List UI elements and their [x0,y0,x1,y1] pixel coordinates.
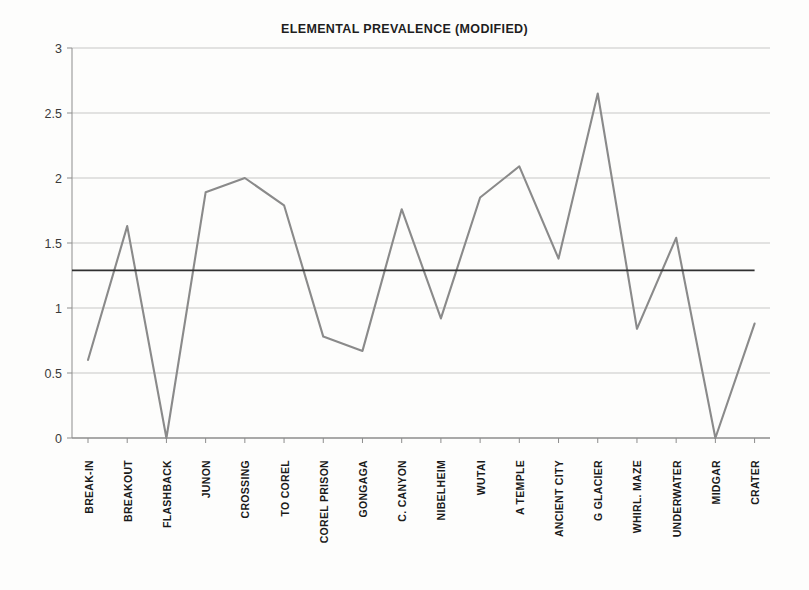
x-axis-category-label: BREAK-IN [83,460,95,514]
y-axis-tick-label: 2.5 [45,107,62,121]
x-axis-category-label: TO COREL [279,460,291,517]
line-chart-plot: 00.511.522.53 BREAK-INBREAKOUTFLASHBACKJ… [0,0,809,590]
x-axis-category-labels: BREAK-INBREAKOUTFLASHBACKJUNONCROSSINGTO… [83,460,762,544]
y-axis-tick-label: 0.5 [45,367,62,381]
x-axis-ticks [88,438,755,443]
x-axis-category-label: GONGAGA [357,460,369,518]
x-axis-category-label: A TEMPLE [514,460,526,515]
x-axis-category-label: NIBELHEIM [435,460,447,520]
y-axis-tick-label: 1.5 [45,237,62,251]
x-axis-category-label: FLASHBACK [161,460,173,528]
y-axis-tick-label: 1 [55,302,62,316]
x-axis-category-label: WUTAI [475,460,487,495]
x-axis-category-label: G GLACIER [592,460,604,521]
series-line-elemental-prevalence [88,94,755,439]
x-axis-category-label: WHIRL. MAZE [631,460,643,533]
x-axis-category-label: COREL PRISON [318,460,330,543]
x-axis-category-label: JUNON [200,460,212,498]
y-axis-tick-label: 2 [55,172,62,186]
chart-container: ELEMENTAL PREVALENCE (MODIFIED) 00.511.5… [0,0,809,590]
x-axis-category-label: CRATER [749,460,761,505]
data-series-group [88,94,755,439]
x-axis-category-label: ANCIENT CITY [553,460,565,537]
y-axis-tick-label: 3 [55,42,62,56]
x-axis-category-label: BREAKOUT [122,460,134,522]
x-axis-category-label: MIDGAR [710,460,722,504]
y-axis-tick-labels: 00.511.522.53 [45,42,72,446]
x-axis-category-label: CROSSING [239,460,251,518]
x-axis-category-label: UNDERWATER [671,460,683,537]
x-axis-category-label: C. CANYON [396,460,408,522]
y-axis-tick-label: 0 [55,432,62,446]
